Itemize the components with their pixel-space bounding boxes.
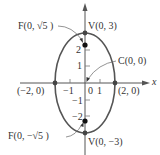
x-axis-arrow-icon [142, 81, 150, 86]
x-axis-label: x [152, 77, 156, 87]
y-tick-label-neg2: −2 [72, 112, 83, 122]
y-tick-label-neg1: −1 [72, 96, 83, 106]
x-tick-label-0: 0 [88, 86, 93, 96]
vertex-right-point [113, 81, 118, 86]
center-label: C(0, 0) [118, 56, 146, 66]
vertex-left-point [53, 81, 58, 86]
vertex-right-label: (2, 0) [118, 86, 140, 96]
vertex-bottom-label: V(0, −3) [88, 137, 123, 147]
focus-top-point [82, 42, 87, 47]
x-tick-label-1: 1 [97, 86, 102, 96]
focus-top-label: F(0, √5 ) [18, 21, 53, 31]
center-leader [88, 61, 116, 79]
focus-top-leader [58, 26, 82, 40]
vertex-left-label: (−2, 0) [17, 86, 44, 96]
leader-arrow-icon [80, 38, 84, 43]
vertex-bottom-point [83, 131, 88, 136]
y-tick-label-2: 2 [76, 45, 81, 55]
y-axis-arrow-icon [83, 3, 88, 11]
focus-bottom-label: F(0, −√5 ) [8, 131, 49, 141]
vertex-top-point [83, 31, 88, 36]
vertex-top-label: V(0, 3) [88, 21, 117, 31]
leader-arrow-icon [87, 77, 91, 82]
y-tick-label-1: 1 [77, 61, 82, 71]
